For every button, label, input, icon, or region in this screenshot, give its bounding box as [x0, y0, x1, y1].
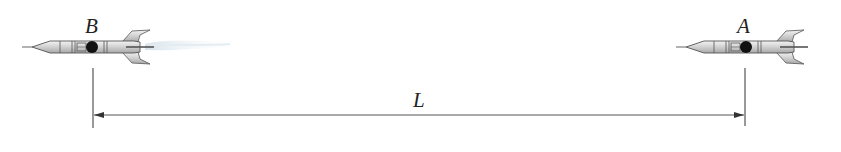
arrowhead-right — [734, 112, 744, 118]
label-a: A — [737, 16, 750, 37]
arrowhead-left — [94, 112, 104, 118]
label-b: B — [85, 16, 98, 37]
label-distance: L — [413, 90, 425, 111]
diagram-canvas — [0, 0, 841, 152]
rocket-b — [22, 30, 246, 64]
